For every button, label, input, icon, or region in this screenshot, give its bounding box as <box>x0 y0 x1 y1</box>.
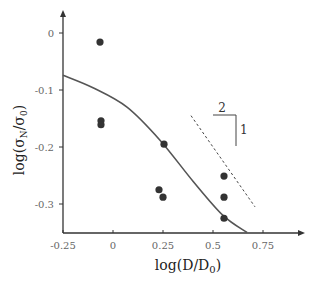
fit-curve-path <box>63 75 247 232</box>
slope-triangle: 2 1 <box>213 101 248 146</box>
data-point <box>220 215 227 222</box>
y-axis-arrow-icon <box>60 10 66 17</box>
data-point <box>155 186 162 193</box>
y-tick-label: -0.2 <box>35 142 54 153</box>
data-point <box>220 194 227 201</box>
tick-labels: -0.2500.250.50.750-0.1-0.2-0.3 <box>35 28 274 252</box>
y-axis-label: log(σN/σ0) <box>11 105 29 175</box>
y-tick-label: -0.3 <box>35 199 54 210</box>
axes <box>59 10 305 236</box>
x-tick-label: 0.75 <box>252 240 274 251</box>
chart: -0.2500.250.50.750-0.1-0.2-0.3 2 1 log(D… <box>0 0 315 288</box>
data-point <box>220 172 227 179</box>
data-point <box>159 194 166 201</box>
x-tick-label: 0.5 <box>205 240 221 251</box>
x-tick-label: -0.25 <box>50 240 76 251</box>
data-point <box>96 39 103 46</box>
x-axis-arrow-icon <box>298 230 305 236</box>
x-tick-label: 0 <box>110 240 116 251</box>
data-points <box>96 39 227 222</box>
y-tick-label: 0 <box>48 28 54 39</box>
data-point <box>97 121 104 128</box>
x-axis-label: log(D/D0) <box>155 257 221 275</box>
fit-curve <box>63 75 247 232</box>
data-point <box>160 141 167 148</box>
y-tick-label: -0.1 <box>35 85 54 96</box>
slope-run-label: 2 <box>218 101 226 115</box>
x-tick-label: 0.25 <box>152 240 174 251</box>
slope-rise-label: 1 <box>240 123 248 137</box>
